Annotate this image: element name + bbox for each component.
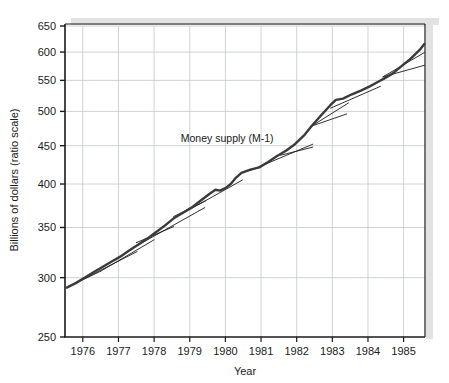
x-tick-label-1984: 1984 — [356, 345, 380, 357]
x-axis-title: Year — [234, 365, 257, 377]
y-tick-label-450: 450 — [38, 140, 56, 152]
y-tick-label-600: 600 — [38, 46, 56, 58]
x-tick-label-1983: 1983 — [320, 345, 344, 357]
y-tick-label-300: 300 — [38, 272, 56, 284]
money-supply-line-chart: 250300350400450500550600650 197619771978… — [0, 0, 449, 383]
x-tick-label-1978: 1978 — [142, 345, 166, 357]
y-tick-label-350: 350 — [38, 221, 56, 233]
x-tick-label-1980: 1980 — [213, 345, 237, 357]
chart-background — [0, 0, 449, 383]
y-tick-label-250: 250 — [38, 331, 56, 343]
x-tick-label-1981: 1981 — [249, 345, 273, 357]
series-annotation-label: Money supply (M-1) — [181, 132, 274, 144]
y-axis-title: Billions of dollars (ratio scale) — [8, 108, 20, 251]
x-tick-label-1985: 1985 — [391, 345, 415, 357]
x-tick-label-1976: 1976 — [71, 345, 95, 357]
x-tick-label-1977: 1977 — [106, 345, 130, 357]
y-tick-label-400: 400 — [38, 178, 56, 190]
x-tick-label-1982: 1982 — [284, 345, 308, 357]
chart-figure: 250300350400450500550600650 197619771978… — [0, 0, 449, 383]
y-tick-label-650: 650 — [38, 20, 56, 32]
x-tick-label-1979: 1979 — [178, 345, 202, 357]
y-tick-label-550: 550 — [38, 74, 56, 86]
frame-shadow-right — [426, 18, 433, 339]
y-tick-label-500: 500 — [38, 105, 56, 117]
